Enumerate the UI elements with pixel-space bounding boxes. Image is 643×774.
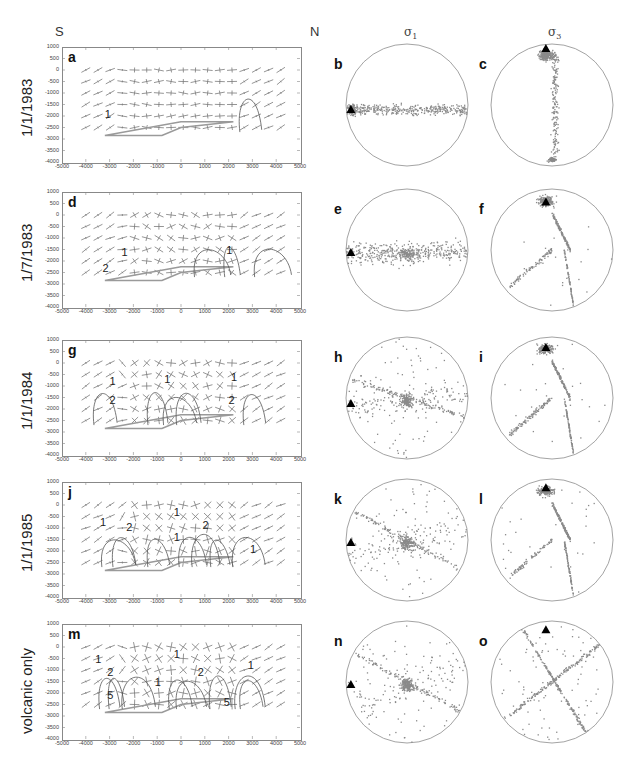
plot-mark bbox=[394, 250, 395, 251]
plot-mark bbox=[448, 512, 449, 513]
contour-label: 1 bbox=[122, 246, 128, 258]
plot-mark bbox=[453, 391, 454, 392]
plot-mark bbox=[439, 107, 440, 108]
plot-mark bbox=[418, 545, 419, 546]
plot-mark bbox=[437, 112, 438, 113]
plot-mark bbox=[381, 107, 382, 108]
plot-mark bbox=[560, 519, 561, 520]
plot-mark bbox=[437, 667, 438, 668]
plot-mark bbox=[384, 525, 385, 526]
plot-mark bbox=[541, 406, 542, 407]
plot-mark bbox=[355, 558, 356, 559]
plot-mark bbox=[368, 256, 369, 257]
plot-mark bbox=[567, 418, 568, 419]
plot-mark bbox=[401, 104, 402, 105]
north-label: N bbox=[310, 24, 319, 39]
plot-mark bbox=[538, 492, 539, 493]
fault-outline bbox=[105, 415, 234, 429]
plot-mark bbox=[416, 113, 417, 114]
plot-mark bbox=[407, 680, 408, 681]
plot-mark bbox=[379, 546, 380, 547]
plot-mark bbox=[451, 706, 452, 707]
y-tick-label: -2000 bbox=[31, 547, 59, 553]
plot-mark bbox=[379, 104, 380, 105]
plot-mark bbox=[554, 129, 555, 130]
plot-mark bbox=[400, 252, 401, 253]
plot-mark bbox=[555, 72, 556, 73]
plot-mark bbox=[526, 637, 527, 638]
plot-mark bbox=[411, 678, 412, 679]
plot-mark bbox=[415, 682, 416, 683]
plot-mark bbox=[426, 494, 427, 495]
plot-mark bbox=[551, 351, 552, 352]
plot-mark bbox=[413, 550, 414, 551]
plot-mark bbox=[449, 254, 450, 255]
sigma1-column-header: σ1 bbox=[404, 25, 417, 41]
plot-mark bbox=[543, 57, 544, 58]
plot-mark bbox=[451, 413, 452, 414]
plot-mark bbox=[530, 268, 531, 269]
plot-mark bbox=[394, 393, 395, 394]
plot-mark bbox=[419, 255, 420, 256]
plot-mark bbox=[395, 697, 396, 698]
plot-mark bbox=[585, 730, 586, 731]
plot-mark bbox=[556, 201, 557, 202]
plot-mark bbox=[514, 430, 515, 431]
plot-mark bbox=[403, 256, 404, 257]
plot-mark bbox=[409, 398, 410, 399]
plot-mark bbox=[510, 578, 511, 579]
y-tick-label: -3000 bbox=[31, 570, 59, 576]
plot-mark bbox=[406, 253, 407, 254]
plot-mark bbox=[353, 241, 354, 242]
plot-mark bbox=[373, 407, 374, 408]
plot-mark bbox=[536, 490, 537, 491]
plot-mark bbox=[464, 251, 465, 252]
plot-mark bbox=[409, 401, 410, 402]
plot-mark bbox=[537, 410, 538, 411]
plot-mark bbox=[422, 400, 423, 401]
plot-mark bbox=[280, 374, 281, 376]
plot-mark bbox=[388, 248, 389, 249]
plot-mark bbox=[383, 400, 384, 401]
plot-mark bbox=[519, 423, 520, 424]
plot-mark bbox=[421, 403, 422, 404]
plot-mark bbox=[557, 649, 558, 650]
plot-mark bbox=[374, 250, 375, 251]
plot-mark bbox=[409, 689, 410, 690]
plot-mark bbox=[569, 432, 570, 433]
contour-label: 1 bbox=[164, 373, 170, 385]
plot-mark bbox=[594, 503, 595, 504]
plot-mark bbox=[361, 252, 362, 253]
plot-mark bbox=[439, 246, 440, 247]
plot-mark bbox=[256, 385, 257, 387]
plot-mark bbox=[571, 584, 572, 585]
plot-mark bbox=[429, 491, 430, 492]
plot-mark bbox=[256, 504, 257, 506]
plot-mark bbox=[373, 386, 374, 387]
plot-mark bbox=[383, 244, 384, 245]
plot-mark bbox=[244, 362, 245, 364]
plot-mark bbox=[85, 127, 86, 129]
plot-mark bbox=[402, 683, 403, 684]
plot-mark bbox=[398, 536, 399, 537]
plot-mark bbox=[539, 637, 540, 638]
plot-mark bbox=[444, 523, 445, 524]
plot-mark bbox=[424, 692, 425, 693]
plot-mark bbox=[461, 401, 462, 402]
plot-mark bbox=[449, 259, 450, 260]
plot-mark bbox=[411, 259, 412, 260]
plot-mark bbox=[352, 556, 353, 557]
plot-mark bbox=[554, 367, 555, 368]
plot-mark bbox=[545, 494, 546, 495]
plot-mark bbox=[417, 531, 418, 532]
plot-mark bbox=[521, 568, 522, 569]
plot-mark bbox=[256, 646, 257, 648]
plot-mark bbox=[230, 235, 233, 240]
plot-mark bbox=[544, 405, 545, 406]
plot-mark bbox=[454, 399, 455, 400]
plot-mark bbox=[389, 670, 390, 671]
plot-mark bbox=[244, 92, 245, 94]
plot-mark bbox=[460, 415, 461, 416]
plot-mark bbox=[558, 373, 559, 374]
plot-mark bbox=[411, 110, 412, 111]
